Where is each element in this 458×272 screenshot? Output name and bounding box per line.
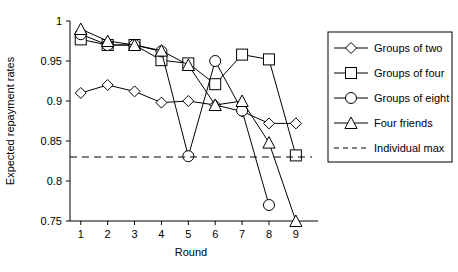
x-tick-label: 3 <box>131 228 137 240</box>
square-marker <box>290 150 301 161</box>
x-tick-label: 1 <box>78 228 84 240</box>
legend-label: Four friends <box>374 117 433 129</box>
y-tick-label: 1 <box>56 15 62 27</box>
legend-label: Groups of four <box>374 67 445 79</box>
square-marker <box>237 49 248 60</box>
legend-item[interactable]: Groups of eight <box>334 92 449 104</box>
diamond-marker <box>346 43 357 54</box>
diamond-marker <box>183 96 194 107</box>
x-tick-label: 4 <box>158 228 164 240</box>
triangle-marker <box>263 137 275 149</box>
x-axis-title: Round <box>175 246 207 258</box>
square-marker <box>346 68 357 79</box>
square-marker <box>263 54 274 65</box>
legend-item[interactable]: Groups of two <box>334 42 442 54</box>
y-tick-label: 0.85 <box>41 135 62 147</box>
diamond-marker <box>75 88 86 99</box>
series-1 <box>75 80 301 129</box>
chart-legend: Groups of twoGroups of fourGroups of eig… <box>328 32 452 162</box>
x-tick-label: 7 <box>239 228 245 240</box>
legend-item[interactable]: Groups of four <box>334 67 445 79</box>
circle-marker <box>346 93 357 104</box>
circle-marker <box>263 200 274 211</box>
y-tick-label: 0.75 <box>41 215 62 227</box>
chart-figure: 0.750.80.850.90.951123456789RoundExpecte… <box>0 0 458 272</box>
square-marker <box>210 79 221 90</box>
x-tick-label: 8 <box>266 228 272 240</box>
line-chart: 0.750.80.850.90.951123456789RoundExpecte… <box>0 0 458 272</box>
triangle-marker <box>75 23 87 35</box>
x-tick-label: 6 <box>212 228 218 240</box>
diamond-marker <box>102 80 113 91</box>
legend-label: Groups of two <box>374 42 442 54</box>
legend-label: Groups of eight <box>374 92 449 104</box>
y-tick-label: 0.8 <box>47 175 62 187</box>
diamond-marker <box>129 86 140 97</box>
x-tick-label: 9 <box>293 228 299 240</box>
diamond-marker <box>156 97 167 108</box>
y-tick-label: 0.9 <box>47 95 62 107</box>
y-axis-ticks: 0.750.80.850.90.951 <box>41 15 70 227</box>
x-axis-ticks: 123456789 <box>78 221 299 240</box>
diamond-marker <box>290 118 301 129</box>
legend-item[interactable]: Individual max <box>334 142 445 154</box>
x-tick-label: 5 <box>185 228 191 240</box>
circle-marker <box>183 151 194 162</box>
circle-marker <box>210 56 221 67</box>
legend-label: Individual max <box>374 142 445 154</box>
y-axis-title: Expected repayment rates <box>4 56 16 185</box>
x-tick-label: 2 <box>105 228 111 240</box>
y-tick-label: 0.95 <box>41 55 62 67</box>
legend-item[interactable]: Four friends <box>334 117 433 129</box>
diamond-marker <box>263 118 274 129</box>
triangle-marker <box>236 95 248 107</box>
